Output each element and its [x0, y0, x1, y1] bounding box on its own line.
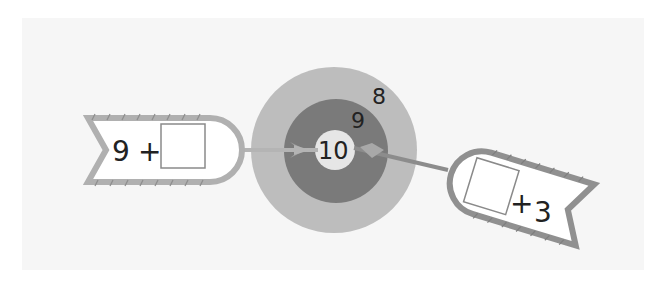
left-operator: +	[138, 135, 161, 168]
ring-label-8: 8	[372, 84, 386, 109]
ring-label-10: 10	[318, 137, 349, 165]
right-operand: 3	[534, 196, 552, 229]
left-operand: 9	[112, 135, 130, 168]
ring-label-9: 9	[351, 108, 365, 133]
left-banner: 9 +	[88, 114, 242, 186]
left-answer-box[interactable]	[161, 124, 205, 168]
dartboard-diagram: 8 9 10 9 +	[0, 0, 666, 286]
right-operator: +	[510, 187, 533, 220]
